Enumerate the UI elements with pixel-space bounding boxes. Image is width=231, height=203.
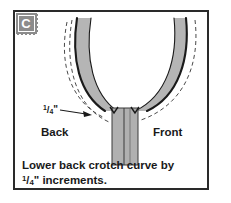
- caption-fraction: 1/4: [22, 175, 34, 187]
- front-curve-band: [135, 18, 187, 111]
- figure-root: C 1/4" Back Front Lower back crotch curv…: [0, 0, 231, 203]
- caption-rest: " increments.: [34, 174, 107, 186]
- measurement-fraction: 1/4: [43, 105, 53, 115]
- measurement-unit: ": [53, 104, 58, 115]
- label-back: Back: [41, 126, 69, 138]
- figure-caption: Lower back crotch curve by 1/4" incremen…: [22, 158, 198, 187]
- caption-line-1: Lower back crotch curve by: [22, 158, 198, 173]
- step-badge-letter: C: [16, 13, 36, 33]
- label-front: Front: [153, 126, 182, 138]
- crotch-extension-strip: [112, 108, 138, 165]
- caption-line-2: 1/4" increments.: [22, 173, 198, 188]
- measure-arrow-head: [83, 111, 92, 117]
- step-badge: C: [16, 13, 39, 36]
- measure-leader-line: [60, 110, 86, 114]
- measurement-label: 1/4": [43, 104, 58, 115]
